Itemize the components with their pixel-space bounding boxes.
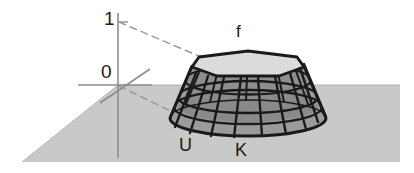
figure-canvas: 1 0 f U K — [0, 0, 414, 173]
open-set-label-u: U — [179, 136, 192, 154]
function-label-f: f — [236, 23, 241, 40]
diagram-svg — [0, 0, 414, 173]
compact-set-label-k: K — [235, 141, 247, 159]
axis-label-one: 1 — [104, 9, 115, 28]
axis-label-zero: 0 — [101, 62, 112, 81]
frustum-bump — [170, 51, 326, 137]
dashed-ray-top — [119, 22, 201, 57]
